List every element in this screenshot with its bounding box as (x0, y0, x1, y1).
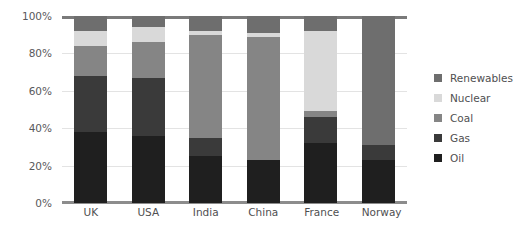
legend-item-oil[interactable]: Oil (434, 148, 530, 168)
bar-segment-india-gas[interactable] (189, 138, 222, 157)
chart-legend: RenewablesNuclearCoalGasOil (434, 68, 530, 168)
bar-series-container (62, 16, 407, 203)
legend-label: Renewables (450, 72, 513, 84)
y-tick-label: 80% (29, 47, 52, 59)
bar-group-uk[interactable] (74, 16, 107, 203)
bar-segment-india-renewables[interactable] (189, 16, 222, 31)
bar-segment-france-oil[interactable] (304, 143, 337, 203)
bar-segment-usa-renewables[interactable] (132, 16, 165, 27)
bar-segment-uk-coal[interactable] (74, 46, 107, 76)
bar-group-france[interactable] (304, 16, 337, 203)
x-tick-label-france: France (304, 206, 337, 226)
legend-item-coal[interactable]: Coal (434, 108, 530, 128)
bar-segment-france-nuclear[interactable] (304, 31, 337, 111)
y-tick-label: 40% (29, 122, 52, 134)
bar-group-norway[interactable] (362, 16, 395, 203)
bar-segment-france-gas[interactable] (304, 117, 337, 143)
bar-segment-china-coal[interactable] (247, 37, 280, 160)
x-tick-label-india: India (189, 206, 222, 226)
x-tick-label-norway: Norway (362, 206, 395, 226)
x-tick-label-usa: USA (132, 206, 165, 226)
bar-segment-france-renewables[interactable] (304, 16, 337, 31)
y-tick-label: 0% (35, 197, 52, 209)
y-axis: 0%20%40%60%80%100% (0, 16, 56, 203)
legend-label: Oil (450, 152, 464, 164)
bar-segment-uk-renewables[interactable] (74, 16, 107, 31)
bar-group-india[interactable] (189, 16, 222, 203)
bar-segment-india-oil[interactable] (189, 156, 222, 203)
y-tick-label: 20% (29, 160, 52, 172)
bar-segment-china-oil[interactable] (247, 160, 280, 203)
x-tick-label-uk: UK (74, 206, 107, 226)
legend-swatch-oil-icon (434, 154, 442, 162)
legend-item-renewables[interactable]: Renewables (434, 68, 530, 88)
legend-swatch-renewables-icon (434, 74, 442, 82)
plot-area (62, 16, 407, 203)
bar-segment-uk-gas[interactable] (74, 76, 107, 132)
x-axis: UKUSAIndiaChinaFranceNorway (62, 206, 407, 226)
bar-segment-norway-gas[interactable] (362, 145, 395, 160)
bar-group-usa[interactable] (132, 16, 165, 203)
legend-label: Gas (450, 132, 470, 144)
bar-segment-usa-nuclear[interactable] (132, 27, 165, 42)
legend-swatch-gas-icon (434, 134, 442, 142)
bar-segment-usa-gas[interactable] (132, 78, 165, 136)
y-tick-label: 60% (29, 85, 52, 97)
legend-label: Nuclear (450, 92, 490, 104)
y-tick-label: 100% (22, 10, 52, 22)
legend-swatch-coal-icon (434, 114, 442, 122)
bar-segment-norway-oil[interactable] (362, 160, 395, 203)
bar-segment-usa-coal[interactable] (132, 42, 165, 78)
legend-item-nuclear[interactable]: Nuclear (434, 88, 530, 108)
legend-item-gas[interactable]: Gas (434, 128, 530, 148)
stacked-bar-chart: 0%20%40%60%80%100% UKUSAIndiaChinaFrance… (0, 0, 532, 244)
bar-segment-china-renewables[interactable] (247, 16, 280, 33)
bar-segment-uk-oil[interactable] (74, 132, 107, 203)
legend-swatch-nuclear-icon (434, 94, 442, 102)
legend-label: Coal (450, 112, 473, 124)
bar-group-china[interactable] (247, 16, 280, 203)
x-tick-label-china: China (247, 206, 280, 226)
bar-segment-norway-renewables[interactable] (362, 16, 395, 145)
bar-segment-usa-oil[interactable] (132, 136, 165, 203)
bar-segment-india-coal[interactable] (189, 35, 222, 138)
bar-segment-uk-nuclear[interactable] (74, 31, 107, 46)
